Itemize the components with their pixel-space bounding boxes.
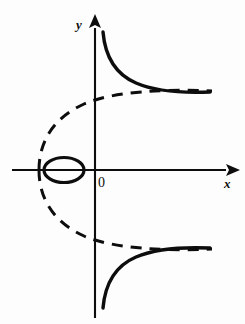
x-axis-label: x — [224, 177, 231, 190]
y-axis-arrowhead — [89, 14, 101, 28]
origin-label: 0 — [98, 176, 105, 190]
x-axis-arrowhead — [226, 164, 240, 176]
lower-solid-branch — [103, 248, 210, 308]
y-axis-label: y — [76, 18, 82, 31]
plot-canvas — [0, 0, 245, 324]
math-figure: y x 0 — [0, 0, 245, 324]
upper-solid-branch — [103, 32, 210, 92]
